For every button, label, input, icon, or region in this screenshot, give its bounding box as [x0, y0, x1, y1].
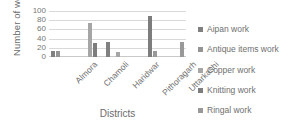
- bar-group: [76, 11, 103, 57]
- legend-swatch-icon: [198, 108, 203, 113]
- legend-item[interactable]: Aipan work: [198, 24, 304, 35]
- bar[interactable]: [153, 51, 157, 57]
- bar[interactable]: [106, 42, 110, 57]
- x-axis-tick-label: Almora: [74, 60, 99, 85]
- x-axis-tick-labels: AlmoraChamoliHaridwarPithoragarhUttarkas…: [49, 58, 186, 98]
- bar-slot: [71, 11, 75, 57]
- bar[interactable]: [51, 51, 55, 57]
- legend-item[interactable]: Antique items work: [198, 44, 304, 55]
- legend-item[interactable]: Knitting work: [198, 85, 304, 96]
- bar[interactable]: [148, 16, 152, 57]
- y-axis-tick-label: 20: [37, 44, 46, 52]
- plot-area: [49, 11, 186, 57]
- legend-label: Copper work: [207, 66, 255, 75]
- legend-swatch-icon: [198, 47, 203, 52]
- y-axis-tick-label: 60: [37, 25, 46, 33]
- bar-slot: [143, 11, 147, 57]
- legend-label: Aipan work: [207, 25, 249, 34]
- bar-chart: Number of workers 020406080100 AlmoraCha…: [0, 0, 306, 136]
- bar-slot: [88, 11, 92, 57]
- bar-group: [49, 11, 76, 57]
- bar-slot: [133, 11, 137, 57]
- bar-slot: [98, 11, 102, 57]
- bar[interactable]: [180, 42, 184, 57]
- legend-item[interactable]: Ringal work: [198, 105, 304, 116]
- bar-slot: [61, 11, 65, 57]
- x-axis-title: Districts: [49, 108, 186, 119]
- bar-slot: [78, 11, 82, 57]
- x-axis-tick-label: Haridwar: [131, 60, 161, 90]
- bar-group: [159, 11, 186, 57]
- bar[interactable]: [56, 51, 60, 57]
- bar[interactable]: [88, 23, 92, 58]
- legend-swatch-icon: [198, 88, 203, 93]
- bar-slot: [121, 11, 125, 57]
- y-axis-tick-label: 80: [37, 16, 46, 24]
- legend-swatch-icon: [198, 68, 203, 73]
- bar-slot: [106, 11, 110, 57]
- bar-slot: [170, 11, 174, 57]
- y-axis-tick-label: 0: [42, 53, 46, 61]
- x-axis-tick-label: Chamoli: [103, 60, 131, 88]
- bar-slot: [111, 11, 115, 57]
- y-axis-tick-label: 100: [33, 7, 46, 15]
- bar-slot: [66, 11, 70, 57]
- bar-slot: [116, 11, 120, 57]
- bar-slot: [175, 11, 179, 57]
- bar-slot: [93, 11, 97, 57]
- bar-slot: [56, 11, 60, 57]
- bar-slot: [148, 11, 152, 57]
- legend-swatch-icon: [198, 27, 203, 32]
- legend-label: Knitting work: [207, 86, 256, 95]
- bar-slot: [165, 11, 169, 57]
- bar-slot: [83, 11, 87, 57]
- bar[interactable]: [93, 43, 97, 57]
- bar-group: [131, 11, 158, 57]
- legend-item[interactable]: Copper work: [198, 65, 304, 76]
- y-axis-tick-label: 40: [37, 35, 46, 43]
- legend-label: Antique items work: [207, 45, 279, 54]
- bar-slot: [126, 11, 130, 57]
- bar-slot: [180, 11, 184, 57]
- bar[interactable]: [116, 52, 120, 57]
- legend: Aipan workAntique items workCopper workK…: [198, 24, 304, 116]
- bar-slot: [160, 11, 164, 57]
- bar-slot: [138, 11, 142, 57]
- bar-groups: [49, 11, 186, 57]
- bar-slot: [51, 11, 55, 57]
- bar-group: [104, 11, 131, 57]
- bar-slot: [153, 11, 157, 57]
- y-axis-tick-labels: 020406080100: [22, 11, 46, 57]
- legend-label: Ringal work: [207, 106, 251, 115]
